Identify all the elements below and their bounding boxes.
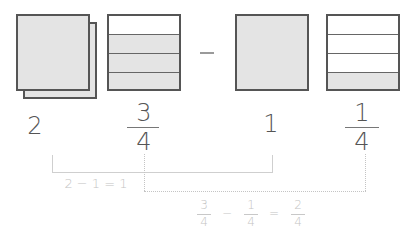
quarter-divider xyxy=(109,53,179,54)
fraction-model-one-quarter xyxy=(326,14,400,91)
eq-fraction-b-denominator: 4 xyxy=(243,216,259,228)
quarter-divider xyxy=(109,34,179,35)
label-fraction-denominator: 4 xyxy=(349,130,375,154)
quarter-divider xyxy=(109,72,179,73)
whole-bracket-left xyxy=(52,155,53,173)
eq-result-denominator: 4 xyxy=(290,216,306,228)
whole-equation: 2 − 1 = 1 xyxy=(60,177,132,190)
quarter-divider xyxy=(328,34,398,35)
quarter-divider xyxy=(328,72,398,89)
whole-square-one xyxy=(235,14,309,91)
label-fraction-numerator: 3 xyxy=(131,101,157,125)
minus-sign xyxy=(200,52,214,54)
quarter-divider xyxy=(328,53,398,54)
label-fraction-numerator: 1 xyxy=(349,101,375,125)
eq-fraction-b-numerator: 1 xyxy=(243,199,259,211)
fraction-bracket-right xyxy=(365,154,366,191)
label-whole-one: 1 xyxy=(258,112,284,136)
label-whole-two: 2 xyxy=(22,114,48,138)
empty-quarter xyxy=(109,16,179,34)
eq-result-numerator: 2 xyxy=(290,199,306,211)
whole-square-front xyxy=(16,14,90,91)
eq-fraction-a-numerator: 3 xyxy=(196,199,212,211)
label-fraction-denominator: 4 xyxy=(131,130,157,154)
eq-fraction-a-denominator: 4 xyxy=(196,216,212,228)
eq-equals: = xyxy=(266,207,282,219)
fraction-model-three-quarters xyxy=(107,14,181,91)
fraction-bracket-left xyxy=(144,154,145,191)
fraction-bracket-bottom xyxy=(144,191,366,192)
eq-minus: − xyxy=(219,207,235,219)
whole-bracket-bottom xyxy=(52,172,273,173)
whole-bracket-right xyxy=(272,155,273,173)
